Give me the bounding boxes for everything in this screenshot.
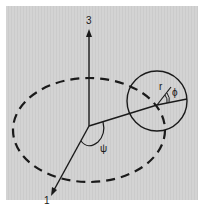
axis-1-arrowhead <box>51 187 57 196</box>
axis-3-label: 3 <box>86 15 92 26</box>
phi-angle-arc <box>165 95 167 103</box>
psi-label: ψ <box>100 143 107 154</box>
axis-3-arrowhead <box>86 29 92 37</box>
radius-r-label: r <box>159 81 163 92</box>
axis-1-line <box>54 126 89 190</box>
torus-coordinate-diagram: 3 1 r ϕ ψ <box>0 0 204 220</box>
phi-label: ϕ <box>172 87 178 98</box>
major-radius-line <box>89 105 157 126</box>
axis-1-label: 1 <box>44 195 50 206</box>
